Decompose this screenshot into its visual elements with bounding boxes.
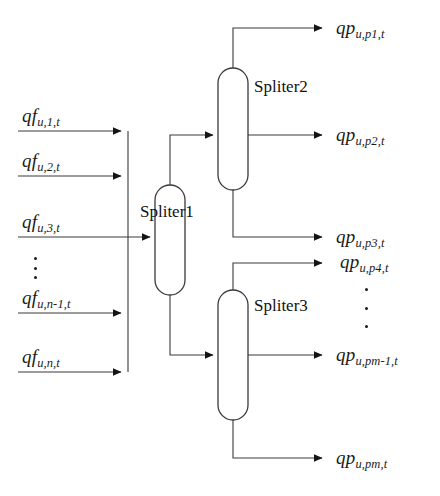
input-label-5: qfu,n,t — [22, 347, 60, 366]
output-label-pm: qpu,pm,t — [336, 448, 387, 467]
block-label-spliter3: Spliter3 — [254, 297, 308, 314]
block-label-spliter1: Spliter1 — [140, 203, 194, 220]
input-ellipsis — [33, 257, 37, 279]
wire-spliter1-to-spliter3 — [170, 295, 213, 355]
wire-output-p3 — [233, 190, 322, 237]
block-label-spliter2: Spliter2 — [254, 78, 308, 95]
output-label-p4: qpu,p4,t — [340, 252, 388, 271]
output-label-p1: qpu,p1,t — [336, 18, 384, 37]
wire-output-pm — [233, 420, 322, 458]
wire-output-p4 — [233, 263, 322, 290]
block-spliter3-shape — [218, 290, 248, 420]
output-label-p3: qpu,p3,t — [336, 227, 384, 246]
output-label-pm1: qpu,pm-1,t — [336, 345, 398, 364]
input-label-2: qfu,2,t — [22, 151, 60, 170]
input-label-4: qfu,n-1,t — [22, 288, 71, 307]
wire-output-p1 — [233, 28, 322, 68]
diagram-canvas: qfu,1,t qfu,2,t qfu,3,t qfu,n-1,t qfu,n,… — [0, 0, 440, 496]
input-label-1: qfu,1,t — [22, 106, 60, 125]
wire-spliter1-to-spliter2 — [170, 135, 213, 185]
output-label-p2: qpu,p2,t — [336, 125, 384, 144]
input-label-3: qfu,3,t — [22, 212, 60, 231]
output-ellipsis — [364, 288, 368, 328]
block-spliter2-shape — [218, 68, 248, 190]
